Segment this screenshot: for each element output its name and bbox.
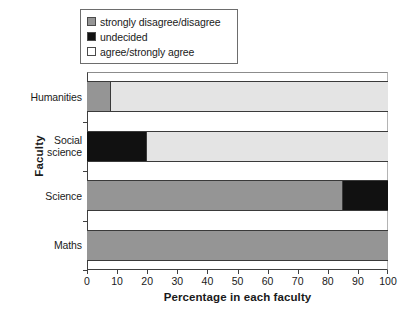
x-tick-label: 100 bbox=[373, 275, 403, 288]
x-axis-tick-labels: 0102030405060708090100 bbox=[87, 275, 388, 289]
x-tick-mark bbox=[177, 270, 178, 274]
x-tick-label: 40 bbox=[192, 275, 222, 288]
bar-science bbox=[87, 180, 388, 211]
swatch-agree-icon bbox=[87, 47, 96, 56]
x-tick-mark bbox=[147, 270, 148, 274]
x-tick-mark bbox=[298, 270, 299, 274]
x-tick-mark bbox=[387, 270, 388, 274]
bar-segment-disagree bbox=[87, 231, 388, 260]
swatch-strongly-disagree-icon bbox=[87, 17, 96, 26]
legend-label-undecided: undecided bbox=[100, 31, 148, 43]
bar-social-science bbox=[87, 131, 388, 162]
x-tick-label: 90 bbox=[343, 275, 373, 288]
x-tick-mark bbox=[87, 270, 88, 274]
swatch-undecided-icon bbox=[87, 32, 96, 41]
bars-layer bbox=[87, 72, 388, 270]
y-tick-mark bbox=[83, 122, 87, 123]
bar-maths bbox=[87, 230, 388, 261]
y-axis-ticks bbox=[87, 72, 88, 270]
bar-segment-disagree bbox=[87, 82, 111, 111]
bar-segment-disagree bbox=[87, 181, 343, 210]
legend-item-undecided: undecided bbox=[87, 29, 232, 44]
x-tick-mark bbox=[328, 270, 329, 274]
x-tick-mark bbox=[268, 270, 269, 274]
x-axis-ticks bbox=[87, 270, 388, 274]
y-axis-tick-labels: HumanitiesSocialscienceScienceMaths bbox=[8, 72, 82, 270]
y-axis-title: Faculty bbox=[33, 101, 45, 211]
x-tick-label: 50 bbox=[223, 275, 253, 288]
x-tick-mark bbox=[117, 270, 118, 274]
x-tick-label: 70 bbox=[283, 275, 313, 288]
x-tick-label: 20 bbox=[132, 275, 162, 288]
x-tick-label: 0 bbox=[72, 275, 102, 288]
y-tick-label-line: Maths bbox=[8, 239, 82, 251]
x-tick-mark bbox=[207, 270, 208, 274]
legend-label-agree: agree/strongly agree bbox=[100, 46, 194, 58]
legend-item-agree: agree/strongly agree bbox=[87, 44, 232, 59]
y-tick-label-line: Social bbox=[8, 134, 82, 146]
bar-segment-undecided bbox=[87, 132, 147, 161]
bar-segment-agree bbox=[111, 82, 388, 111]
x-tick-label: 10 bbox=[102, 275, 132, 288]
x-tick-mark bbox=[238, 270, 239, 274]
y-tick-mark bbox=[83, 171, 87, 172]
legend-item-strongly-disagree: strongly disagree/disagree bbox=[87, 14, 232, 29]
y-tick-mark bbox=[83, 221, 87, 222]
chart-legend: strongly disagree/disagree undecided agr… bbox=[80, 9, 238, 64]
y-tick-label-line: science bbox=[8, 146, 82, 158]
y-tick-label-maths: Maths bbox=[8, 239, 82, 251]
y-tick-label-line: Humanities bbox=[8, 91, 82, 103]
y-tick-label-science: Science bbox=[8, 190, 82, 202]
bar-segment-agree bbox=[147, 132, 388, 161]
legend-label-strongly-disagree: strongly disagree/disagree bbox=[100, 16, 221, 28]
x-tick-label: 60 bbox=[253, 275, 283, 288]
bar-segment-undecided bbox=[343, 181, 388, 210]
x-tick-label: 30 bbox=[162, 275, 192, 288]
y-tick-label-line: Science bbox=[8, 190, 82, 202]
y-tick-label-humanities: Humanities bbox=[8, 91, 82, 103]
x-tick-mark bbox=[358, 270, 359, 274]
x-axis-title: Percentage in each faculty bbox=[87, 291, 388, 303]
x-tick-label: 80 bbox=[313, 275, 343, 288]
bar-humanities bbox=[87, 81, 388, 112]
y-tick-label-social-science: Socialscience bbox=[8, 134, 82, 158]
